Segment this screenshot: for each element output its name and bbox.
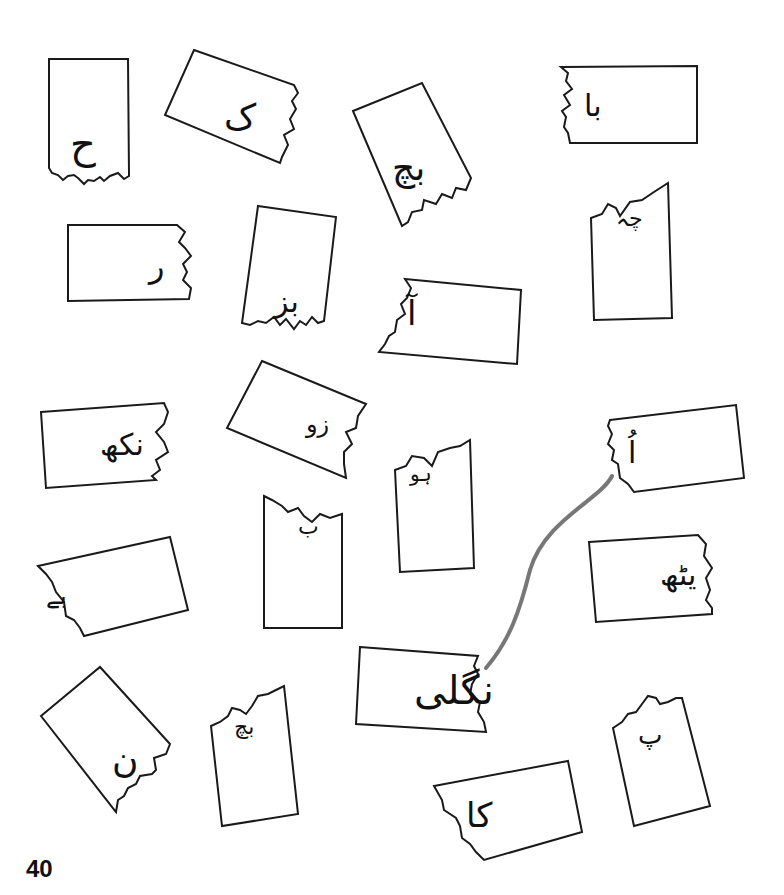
paper-piece[interactable]: ب — [262, 494, 346, 630]
piece-text: بچ — [234, 716, 254, 738]
piece-text: اُ — [628, 438, 636, 468]
paper-piece[interactable]: بے — [36, 536, 190, 638]
piece-text: ر — [149, 250, 164, 282]
piece-text: بز — [274, 287, 299, 317]
paper-piece[interactable]: زو — [226, 360, 372, 484]
paper-piece[interactable]: نکھ — [40, 402, 170, 490]
paper-piece[interactable]: ر — [67, 224, 197, 304]
torn-paper-outline-icon — [588, 534, 720, 630]
piece-text: با — [584, 91, 602, 121]
piece-text: ک — [224, 99, 256, 135]
paper-piece[interactable]: ن — [40, 666, 174, 810]
piece-text: زو — [306, 412, 329, 436]
piece-text: ن — [112, 742, 138, 778]
piece-text: ح — [70, 124, 96, 164]
paper-piece[interactable]: چہ — [590, 182, 676, 322]
piece-text: آ — [407, 296, 416, 330]
piece-text: نکھ — [100, 430, 144, 460]
worksheet-page: ح ک بچ با ر بز — [0, 0, 784, 895]
piece-text: پ — [638, 722, 662, 748]
paper-piece[interactable]: با — [560, 65, 700, 145]
torn-paper-outline-icon — [394, 438, 478, 574]
torn-paper-outline-icon — [612, 694, 714, 826]
piece-text: چہ — [616, 208, 643, 230]
torn-paper-outline-icon — [590, 182, 676, 322]
torn-paper-outline-icon — [432, 760, 584, 860]
piece-text: کا — [466, 798, 493, 832]
piece-text: ہو — [410, 464, 432, 484]
piece-text: بے — [46, 584, 67, 608]
torn-paper-outline-icon — [560, 65, 700, 145]
torn-paper-outline-icon — [210, 686, 302, 830]
paper-piece[interactable]: نگلی — [354, 646, 490, 736]
torn-paper-outline-icon — [67, 224, 197, 304]
piece-text: نگلی — [414, 670, 494, 710]
paper-piece[interactable]: کا — [432, 760, 584, 860]
piece-text: ب — [298, 516, 319, 538]
paper-piece[interactable]: ک — [164, 49, 304, 161]
piece-text: یٹھ — [660, 560, 696, 590]
piece-text: بچ — [392, 150, 425, 186]
paper-piece[interactable]: ہو — [394, 438, 478, 574]
paper-piece[interactable]: آ — [377, 278, 523, 366]
paper-piece[interactable]: اُ — [606, 404, 748, 494]
paper-piece[interactable]: ح — [48, 58, 132, 188]
page-number: 40 — [26, 855, 53, 883]
torn-paper-outline-icon — [226, 360, 372, 484]
paper-piece[interactable]: پ — [612, 694, 714, 826]
paper-piece[interactable]: یٹھ — [588, 534, 720, 630]
paper-piece[interactable]: بچ — [352, 82, 474, 226]
paper-piece[interactable]: بز — [240, 205, 340, 335]
paper-piece[interactable]: بچ — [210, 686, 302, 830]
torn-paper-outline-icon — [377, 278, 523, 366]
torn-paper-outline-icon — [40, 666, 174, 810]
